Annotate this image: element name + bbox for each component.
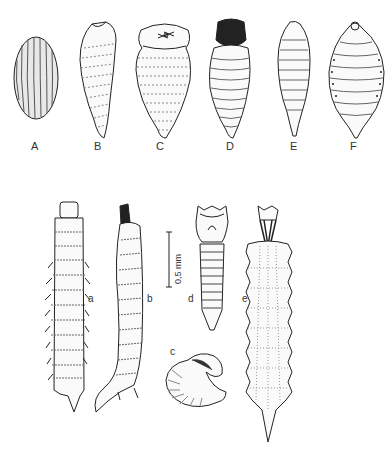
panel-label-D: D: [226, 140, 234, 152]
larva-drawing-e-upper: [278, 21, 310, 136]
scale-bar: [166, 232, 172, 287]
panel-label-F: F: [350, 140, 357, 152]
panel-label-C: C: [156, 140, 164, 152]
egg-drawing-a: [14, 37, 58, 119]
larva-drawing-f-upper: [329, 22, 384, 138]
panel-label-A: A: [31, 140, 38, 152]
larva-drawing-d-upper: [210, 19, 251, 138]
larva-drawing-b: [80, 22, 116, 138]
larva-drawing-b-lower: [95, 204, 143, 412]
panel-label-a: a: [88, 293, 94, 304]
larva-drawing-c-upper: [136, 24, 191, 138]
panel-label-d: d: [188, 293, 194, 304]
scale-bar-label: 0,5 mm: [173, 254, 183, 284]
panel-label-e: e: [242, 293, 248, 304]
panel-label-B: B: [94, 140, 101, 152]
panel-label-c: c: [170, 346, 175, 357]
larva-drawing-c-lower: [166, 354, 226, 407]
panel-label-b: b: [147, 293, 153, 304]
larva-drawing-e-lower: [246, 206, 292, 442]
larva-drawing-d-lower: [196, 206, 228, 330]
figure: [0, 0, 391, 450]
panel-label-E: E: [290, 140, 297, 152]
larva-drawing-a-lower: [45, 202, 90, 412]
